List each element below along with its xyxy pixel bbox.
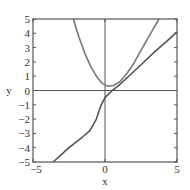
y-tick-label: −2 [18, 113, 30, 125]
y-tick-label: 3 [25, 42, 31, 54]
series-lower-curve [53, 32, 177, 162]
y-tick-label: −5 [18, 156, 30, 168]
y-tick-label: −1 [18, 99, 30, 111]
x-tick-label: −5 [30, 163, 42, 175]
zero-lines [33, 19, 177, 162]
x-tick-label: 0 [102, 163, 108, 175]
y-tick-labels: −5−4−3−2−1012345 [18, 13, 30, 168]
y-tick-label: 0 [25, 85, 31, 97]
y-tick-label: 1 [25, 70, 31, 82]
y-axis-label: y [6, 84, 12, 96]
y-tick-label: −3 [18, 127, 30, 139]
y-tick-label: 5 [25, 13, 31, 25]
x-axis-label: x [102, 175, 108, 187]
x-tick-label: 5 [174, 163, 180, 175]
y-tick-label: 2 [25, 56, 31, 68]
y-tick-label: −4 [18, 142, 30, 154]
series-parabola [73, 19, 159, 86]
chart: −5−4−3−2−1012345 −505 x y [0, 0, 190, 190]
x-tick-labels: −505 [30, 163, 180, 175]
y-tick-label: 4 [25, 27, 31, 39]
